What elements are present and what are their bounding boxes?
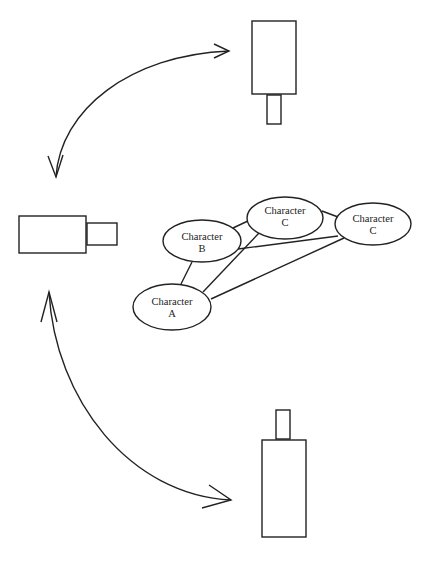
camera-top-body: [252, 21, 296, 94]
character-b-label-line2: B: [198, 243, 205, 254]
character-a: Character A: [133, 284, 211, 330]
camera-left-lens: [87, 223, 117, 245]
connection-cmid-cright: [322, 211, 338, 217]
connection-b-a: [181, 262, 192, 284]
camera-top-lens: [267, 95, 281, 124]
character-b: Character B: [163, 220, 241, 262]
camera-diagram: Character B Character C Character C Char…: [0, 0, 432, 562]
arrowhead-down-icon: [48, 155, 63, 177]
character-c-right-label-line1: Character: [353, 213, 394, 224]
character-c-right-label-line2: C: [369, 225, 376, 236]
camera-left-body: [19, 216, 86, 253]
camera-bottom-body: [262, 440, 306, 537]
arc-path-bottom: [49, 292, 231, 500]
camera-left: [19, 216, 117, 253]
camera-top: [252, 21, 296, 124]
arrow-bottom-arc: [41, 292, 231, 508]
arc-path-top: [56, 51, 229, 177]
character-c-middle: Character C: [247, 197, 323, 239]
arrow-top-arc: [48, 44, 229, 177]
character-c-middle-label-line1: Character: [265, 205, 306, 216]
character-c-right: Character C: [335, 203, 411, 245]
character-a-label-line1: Character: [152, 296, 193, 307]
character-c-right-ellipse: [335, 203, 411, 245]
camera-bottom: [262, 410, 306, 537]
character-a-label-line2: A: [168, 308, 176, 319]
character-b-label-line1: Character: [182, 231, 223, 242]
camera-bottom-lens: [276, 410, 290, 439]
character-c-middle-label-line2: C: [281, 217, 288, 228]
character-a-ellipse: [133, 284, 211, 330]
